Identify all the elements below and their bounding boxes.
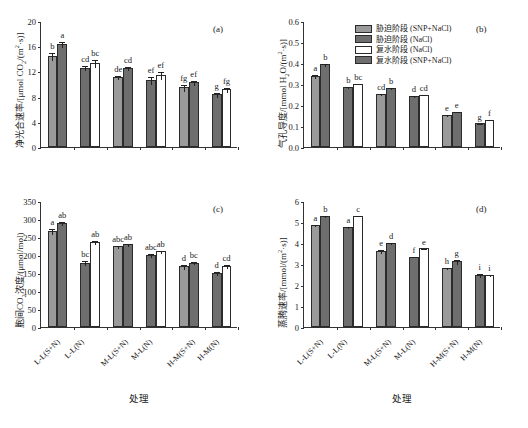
bar (475, 275, 485, 327)
legend-label: 胁迫阶段 (NaCl) (376, 35, 432, 44)
y-axis-tick-label: 4 (295, 239, 299, 249)
y-axis-label: 蒸腾速率/[mmol/(m2·s)] (276, 237, 289, 328)
x-axis-tick-label: M-L(N) (392, 337, 417, 362)
significance-letter: e (379, 238, 383, 248)
y-axis-tick (301, 307, 304, 308)
bar (311, 225, 321, 327)
y-axis-tick (301, 286, 304, 287)
legend-item: 复水阶段 (NaCl) (355, 45, 451, 54)
significance-letter: d (389, 231, 393, 241)
legend: 胁迫阶段 (SNP+NaCl)胁迫阶段 (NaCl)复水阶段 (NaCl)复水阶… (355, 24, 451, 66)
error-bar-cap (444, 268, 450, 269)
x-axis-tick (435, 327, 436, 330)
significance-letter: g (455, 248, 459, 258)
error-bar-cap (355, 216, 361, 217)
bar (320, 216, 330, 327)
y-axis-tick-label: 6 (295, 197, 299, 207)
error-bar-cap (421, 249, 427, 250)
y-axis-tick (301, 223, 304, 224)
x-axis-tick (468, 327, 469, 330)
legend-swatch (355, 25, 372, 33)
bar (353, 216, 363, 327)
legend-label: 复水阶段 (NaCl) (376, 45, 432, 54)
figure-container: 048121620bacdbcdecdefeffgefgfg净光合速率/[μmo… (0, 0, 528, 428)
error-bar-cap (312, 225, 318, 226)
y-axis-tick-label: 2 (295, 281, 299, 291)
y-axis-tick (301, 265, 304, 266)
significance-letter: i (488, 263, 490, 273)
legend-swatch (355, 35, 372, 43)
y-axis-tick-label: 5 (295, 218, 299, 228)
y-axis-tick-label: 0 (295, 323, 299, 333)
x-axis-tick (337, 327, 338, 330)
y-axis-tick (301, 244, 304, 245)
bar (442, 268, 452, 327)
significance-letter: e (422, 237, 426, 247)
significance-letter: a (314, 213, 318, 223)
legend-item: 胁迫阶段 (SNP+NaCl) (355, 24, 451, 33)
significance-letter: a (346, 215, 350, 225)
error-bar-cap (388, 243, 394, 244)
x-axis-label: 处理 (392, 391, 412, 405)
significance-letter: i (478, 262, 480, 272)
error-bar-cap (345, 227, 351, 228)
legend-swatch (355, 56, 372, 64)
significance-letter: b (323, 204, 327, 214)
bar (343, 227, 353, 327)
legend-swatch (355, 46, 372, 54)
error-bar-cap (411, 257, 417, 258)
error-bar-cap (378, 250, 384, 251)
x-axis-tick (403, 327, 404, 330)
x-axis-tick-label: L-L(N) (326, 337, 349, 360)
y-axis-tick-label: 3 (295, 260, 299, 270)
bar (376, 251, 386, 327)
error-bar-cap (454, 260, 460, 261)
significance-letter: f (413, 245, 416, 255)
legend-item: 胁迫阶段 (NaCl) (355, 35, 451, 44)
legend-item: 复水阶段 (SNP+NaCl) (355, 56, 451, 65)
legend-label: 复水阶段 (SNP+NaCl) (376, 56, 451, 65)
bar (485, 275, 495, 327)
x-axis-tick-label: L-L(S+N) (296, 337, 325, 366)
x-axis-tick-label: H-M(N) (458, 337, 483, 362)
error-bar-cap (487, 275, 493, 276)
y-axis-tick-label: 1 (295, 302, 299, 312)
plot-area: 0123456abacedfehgii (303, 202, 500, 328)
bar (452, 261, 462, 327)
significance-letter: h (445, 256, 449, 266)
x-axis-tick (370, 327, 371, 330)
x-axis-tick-label: H-M(S+N) (428, 337, 460, 369)
bar (409, 257, 419, 327)
x-axis-tick (501, 327, 502, 330)
panel-label: (d) (476, 204, 487, 214)
x-axis-tick-label: M-L(S+N) (362, 337, 393, 368)
error-bar-cap (322, 216, 328, 217)
bar (386, 243, 396, 327)
legend-label: 胁迫阶段 (SNP+NaCl) (376, 24, 451, 33)
significance-letter: c (356, 204, 360, 214)
y-axis-tick (301, 328, 304, 329)
error-bar-cap (477, 274, 483, 275)
y-axis-tick (301, 202, 304, 203)
bar (419, 248, 429, 327)
